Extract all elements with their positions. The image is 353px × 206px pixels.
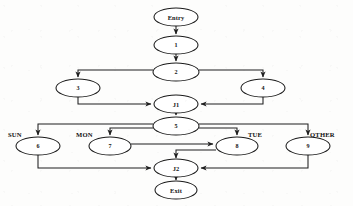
edge-5-to-7 <box>110 128 153 135</box>
edge-5-to-8 <box>199 128 237 135</box>
node-entry[interactable]: Entry <box>154 8 198 26</box>
edge-4-to-j1 <box>201 97 263 104</box>
edge-2-to-3 <box>78 70 153 77</box>
edge-label-mon: MON <box>76 131 93 138</box>
node-2[interactable]: 2 <box>153 63 199 81</box>
node-5[interactable]: 5 <box>153 117 199 135</box>
edge-9-to-j2 <box>201 155 308 168</box>
node-7[interactable]: 7 <box>89 137 131 155</box>
node-j2[interactable]: J2 <box>154 159 198 177</box>
node-j1[interactable]: J1 <box>154 95 198 113</box>
node-5-label: 5 <box>174 123 177 129</box>
node-entry-label: Entry <box>168 14 185 21</box>
flowchart-diagram: Entry 1 2 3 4 J1 <box>0 0 353 206</box>
node-j1-label: J1 <box>173 101 180 108</box>
node-layer: Entry 1 2 3 4 J1 <box>16 8 330 199</box>
node-4[interactable]: 4 <box>241 79 285 97</box>
node-3-label: 3 <box>76 85 79 91</box>
node-6[interactable]: 6 <box>16 137 60 155</box>
node-3[interactable]: 3 <box>56 79 100 97</box>
edge-label-tue: TUE <box>248 131 263 138</box>
node-1-label: 1 <box>174 42 177 48</box>
node-4-label: 4 <box>261 85 264 91</box>
node-7-label: 7 <box>108 143 111 149</box>
node-9[interactable]: 9 <box>286 137 330 155</box>
node-8[interactable]: 8 <box>216 137 258 155</box>
edge-2-to-4 <box>199 70 263 77</box>
node-6-label: 6 <box>36 143 39 149</box>
edge-5-to-6 <box>38 124 153 135</box>
node-9-label: 9 <box>306 143 309 149</box>
node-exit-label: Exit <box>170 187 183 194</box>
node-1[interactable]: 1 <box>154 36 198 54</box>
node-j2-label: J2 <box>173 165 180 172</box>
edge-label-other: OTHER <box>310 131 335 138</box>
node-2-label: 2 <box>174 69 177 75</box>
edge-label-sun: SUN <box>8 131 22 138</box>
edge-3-to-j1 <box>78 97 151 104</box>
edge-8-to-j2 <box>176 150 216 158</box>
flowchart-canvas: Entry 1 2 3 4 J1 <box>0 0 353 206</box>
node-exit[interactable]: Exit <box>155 181 197 199</box>
edge-6-to-j2 <box>38 155 151 168</box>
node-8-label: 8 <box>235 143 238 149</box>
